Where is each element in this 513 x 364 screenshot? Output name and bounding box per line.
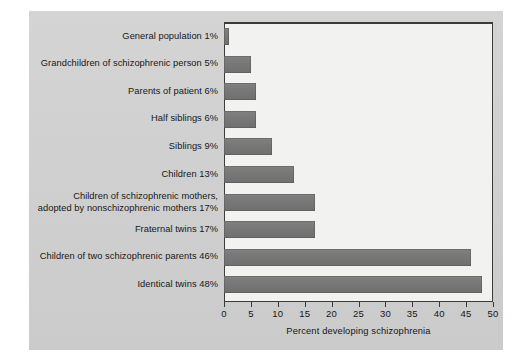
x-axis-tick [466,302,467,307]
bar-track [224,194,493,211]
bar-track [224,138,493,155]
bar [224,83,256,100]
x-axis-tick [439,302,440,307]
x-axis-tick [359,302,360,307]
bar-row: Parents of patient 6% [29,83,503,100]
bar-row-label: Siblings 9% [169,141,218,153]
x-axis-tick-label: 5 [248,308,253,319]
bar-row: Identical twins 48% [29,276,503,293]
bar-row-label: Parents of patient 6% [128,86,218,98]
x-axis-tick-label: 30 [380,308,391,319]
bar [224,221,315,238]
bar-row-label: Children of two schizophrenic parents 46… [40,252,218,264]
bar-row: Half siblings 6% [29,111,503,128]
x-axis: Percent developing schizophrenia 0510152… [224,302,493,360]
bar-row-label: Grandchildren of schizophrenic person 5% [41,58,218,70]
bar-track [224,166,493,183]
bar-row: Siblings 9% [29,138,503,155]
bar-row-label: Children of schizophrenic mothers, adopt… [38,191,218,214]
bar-row: Children 13% [29,166,503,183]
bar-track [224,28,493,45]
bar-row: Fraternal twins 17% [29,221,503,238]
x-axis-tick [332,302,333,307]
bar [224,194,315,211]
bar-track [224,249,493,266]
bar-row-label: Fraternal twins 17% [135,224,218,236]
x-axis-tick-label: 35 [407,308,418,319]
x-axis-tick [493,302,494,307]
bar-row-label: Half siblings 6% [151,114,218,126]
x-axis-tick [251,302,252,307]
x-axis-tick-label: 25 [353,308,364,319]
bar [224,56,251,73]
x-axis-tick [278,302,279,307]
x-axis-tick-label: 50 [488,308,499,319]
bar-row-label: Identical twins 48% [137,279,218,291]
x-axis-tick [224,302,225,307]
x-axis-tick-label: 45 [461,308,472,319]
x-axis-tick-label: 40 [434,308,445,319]
x-axis-tick [385,302,386,307]
x-axis-tick-label: 20 [326,308,337,319]
bar-row: General population 1% [29,28,503,45]
bar-row: Children of schizophrenic mothers, adopt… [29,194,503,211]
bar-track [224,276,493,293]
bar [224,138,272,155]
bar [224,111,256,128]
bar [224,276,482,293]
x-axis-tick-label: 10 [272,308,283,319]
bar-row: Children of two schizophrenic parents 46… [29,249,503,266]
bar [224,28,229,45]
bar-track [224,56,493,73]
bar-row: Grandchildren of schizophrenic person 5% [29,56,503,73]
x-axis-title: Percent developing schizophrenia [224,326,493,336]
x-axis-tick [412,302,413,307]
bar-row-label: Children 13% [162,169,218,181]
bar [224,166,294,183]
figure-panel: General population 1%Grandchildren of sc… [29,11,503,350]
bar-row-label: General population 1% [122,31,218,43]
bar-track [224,221,493,238]
x-axis-tick-label: 0 [221,308,226,319]
x-axis-tick [305,302,306,307]
bar-track [224,83,493,100]
bar [224,249,471,266]
x-axis-tick-label: 15 [299,308,310,319]
bar-track [224,111,493,128]
bar-rows: General population 1%Grandchildren of sc… [29,22,503,302]
